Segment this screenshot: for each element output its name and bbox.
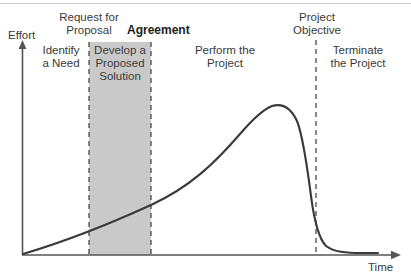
project-life-cycle-chart: Effort Time Request for Proposal Agreeme…	[0, 0, 411, 279]
x-axis-arrowhead	[391, 251, 401, 259]
phase-label-develop-a-proposed-solution: Develop a Proposed Solution	[92, 44, 148, 83]
phase-label-perform-the-project: Perform the Project	[186, 44, 264, 70]
milestone-label-project-objective: Project Objective	[283, 11, 351, 37]
x-axis-label: Time	[368, 261, 393, 274]
chart-canvas	[0, 0, 411, 279]
y-axis-label: Effort	[8, 29, 35, 42]
milestone-label-request-for-proposal: Request for Proposal	[52, 11, 126, 37]
effort-curve	[23, 105, 378, 254]
phase-label-terminate-the-project: Terminate the Project	[322, 44, 394, 70]
milestone-label-agreement: Agreement	[127, 24, 193, 37]
phase-label-identify-a-need: Identify a Need	[35, 44, 87, 70]
